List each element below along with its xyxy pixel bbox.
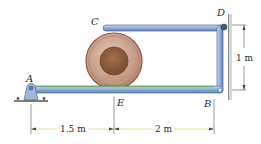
pin-b (218, 88, 222, 92)
label-b: B (203, 98, 211, 109)
frame-diagram: A C D E B 1.5 m 2 m 1 m (0, 0, 261, 144)
member-cd (103, 25, 223, 31)
dimension-ae: 1.5 m (31, 124, 114, 134)
member-ab (28, 86, 223, 93)
label-d: D (216, 7, 225, 18)
member-db (217, 25, 223, 93)
label-e: E (116, 97, 125, 108)
label-a: A (25, 73, 33, 84)
dimension-ae-label: 1.5 m (60, 124, 86, 134)
extension-lines (31, 25, 246, 134)
dimension-bd: 1 m (236, 25, 254, 90)
label-c: C (91, 16, 99, 27)
wall (229, 14, 232, 100)
dimension-eb: 2 m (114, 124, 214, 134)
pin-d (221, 24, 227, 30)
dimension-eb-label: 2 m (155, 124, 173, 134)
spool (86, 33, 142, 89)
dimension-bd-label: 1 m (236, 53, 254, 63)
